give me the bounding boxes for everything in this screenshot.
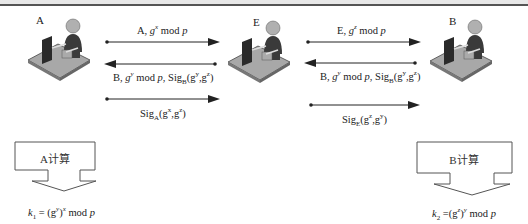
arrow-a-to-e-3 — [104, 94, 220, 104]
formula-k1: k1 = (gy)x mod p — [28, 205, 95, 221]
callout-b-shape — [416, 141, 514, 197]
callout-a-shape — [14, 141, 98, 193]
msg-e-to-a-2: B, gy mod p, SigB(gy,gz) — [113, 70, 213, 86]
msg-a-to-e-3: SigA(gx,gz) — [140, 106, 186, 122]
arrow-e-to-b-1 — [305, 37, 421, 47]
callout-b-label: B计算 — [416, 151, 512, 167]
callout-a-label: A计算 — [14, 150, 96, 166]
arrow-e-to-b-3 — [308, 100, 420, 110]
workstation-e-icon — [222, 16, 294, 88]
msg-e-to-b-1: E, gz mod p — [337, 23, 386, 36]
msg-b-to-e-2: B, gy mod p, SigB(gy,gz) — [320, 69, 420, 85]
arrow-e-to-a-2 — [104, 59, 218, 69]
arrow-a-to-e-1 — [104, 37, 220, 47]
workstation-a-icon — [22, 14, 94, 86]
msg-e-to-b-3: SigE(gz,gy) — [342, 112, 387, 128]
msg-a-to-e-1: A, gx mod p — [137, 23, 187, 36]
workstation-b-icon — [424, 15, 496, 87]
arrow-b-to-e-2 — [304, 58, 418, 68]
formula-k2: k2 =(gz)y mod p — [432, 206, 496, 222]
header-divider — [0, 4, 528, 6]
